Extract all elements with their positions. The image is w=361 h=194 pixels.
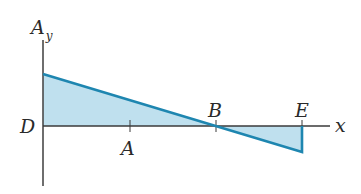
influence-line-diagram: Ay x D A B E bbox=[0, 0, 361, 194]
y-axis-label: Ay bbox=[31, 18, 52, 37]
point-label-b: B bbox=[208, 101, 222, 120]
x-axis-label: x bbox=[335, 116, 346, 135]
point-label-d: D bbox=[20, 117, 35, 136]
point-label-e: E bbox=[295, 101, 309, 120]
y-axis-label-subscript: y bbox=[46, 29, 53, 43]
diagram-graphics bbox=[0, 0, 361, 194]
y-axis-label-main: A bbox=[31, 16, 45, 38]
point-label-a: A bbox=[121, 139, 135, 158]
